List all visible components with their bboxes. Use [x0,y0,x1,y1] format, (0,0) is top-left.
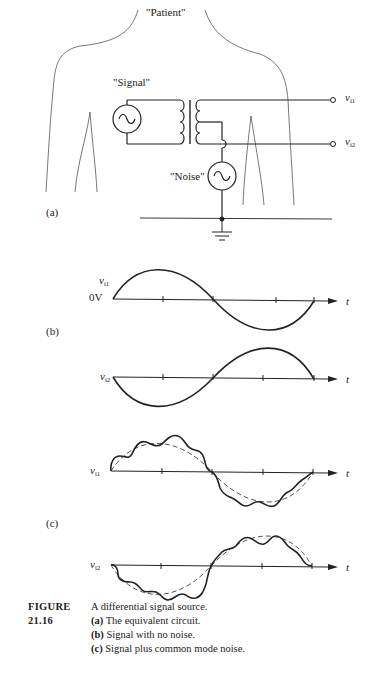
panel-c-label: (c) [46,517,58,529]
noise-source [208,162,236,219]
signal-label: "Signal" [113,76,150,88]
caption-a-text: The equivalent circuit. [106,615,201,626]
panel-b-label: (b) [46,325,59,337]
output-vi2-sub: i2 [350,141,355,149]
caption-c-text: Signal plus common mode noise. [105,643,245,654]
plot-c-vi2-label: vi2 [90,558,100,572]
patient-label: "Patient" [146,6,186,18]
plot-c-vi1-label: vi1 [90,464,100,478]
caption-lines: A differential signal source. (a) The eq… [91,600,351,656]
plot-b-vi2-label: vi2 [100,370,110,384]
figure-drawing [0,0,382,678]
caption-title: A differential signal source. [91,600,351,614]
noise-label: "Noise" [170,170,205,182]
plot-c-vi1 [111,435,338,506]
output-vi1-label: vi1 [345,91,355,105]
output-vi1-sub: i1 [350,97,355,105]
caption-b-tag: (b) [91,629,104,640]
ground [140,217,332,240]
plot-b-vi2-t-label: t [346,373,349,385]
plot-b-vi2 [113,348,338,406]
plot-c-vi2-t-label: t [346,561,349,573]
plot-b-vi1-sub: i1 [104,280,109,288]
caption-b: (b) Signal with no noise. [91,628,351,642]
caption-b-text: Signal with no noise. [106,629,195,640]
caption-c: (c) Signal plus common mode noise. [91,642,351,656]
figure-number: FIGURE 21.16 [28,600,71,628]
plot-b-vi1-label: vi1 [99,274,109,288]
plot-b-vi1-t-label: t [346,295,349,307]
plot-b-vi2-sub: i2 [105,376,110,384]
plot-b-vi1 [113,270,338,330]
output-terminals [331,98,336,147]
caption-c-tag: (c) [91,643,103,654]
plot-c-vi1-sub: i1 [95,470,100,478]
output-vi2-label: vi2 [345,135,355,149]
plot-c-vi1-t-label: t [346,467,349,479]
plot-c-vi2 [111,536,338,600]
plot-c-vi2-sub: i2 [95,564,100,572]
zero-volt-label: 0V [89,291,102,303]
caption-a-tag: (a) [91,615,103,626]
signal-source [113,100,330,162]
panel-a-label: (a) [46,206,58,218]
caption-a: (a) The equivalent circuit. [91,614,351,628]
